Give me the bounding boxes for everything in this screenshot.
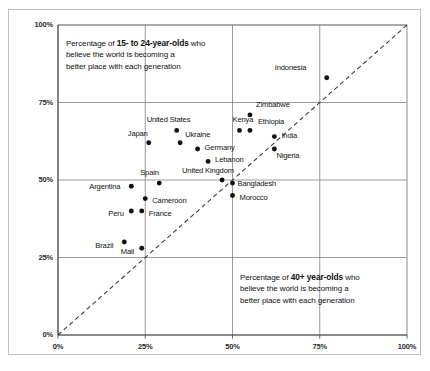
annotation-y-axis-description-emphasis: 15- to 24-year-olds: [117, 38, 189, 48]
point-label-mali: Mali: [121, 247, 134, 256]
data-point[interactable]: [248, 128, 253, 133]
x-axis-tick-label-75: 75%: [300, 342, 340, 351]
x-axis-tick-label-50: 50%: [213, 342, 253, 351]
point-label-lebanon: Lebanon: [215, 155, 244, 164]
data-point[interactable]: [143, 196, 148, 201]
annotation-y-axis-description: Percentage of 15- to 24-year-olds whobel…: [66, 38, 205, 72]
point-label-germany: Germany: [205, 143, 235, 152]
annotation-x-axis-description-line-3: better place with each generation: [240, 295, 360, 306]
annotation-x-axis-description-suffix: who: [343, 273, 360, 282]
data-point[interactable]: [324, 75, 329, 80]
annotation-y-axis-description-line-1: Percentage of 15- to 24-year-olds who: [66, 38, 205, 49]
data-point[interactable]: [237, 128, 242, 133]
point-label-zimbabwe: Zimbabwe: [256, 100, 290, 109]
point-label-indonesia: Indonesia: [275, 63, 307, 72]
data-point[interactable]: [220, 178, 225, 183]
point-label-india: India: [281, 131, 297, 140]
point-label-peru: Peru: [108, 209, 123, 218]
y-axis-tick-label-100: 100%: [22, 20, 53, 29]
annotation-x-axis-description-line-1: Percentage of 40+ year-olds who: [240, 272, 360, 283]
point-label-nigeria: Nigeria: [276, 151, 299, 160]
y-axis-tick-label-0: 0%: [22, 330, 53, 339]
annotation-y-axis-description-prefix: Percentage of: [66, 39, 117, 48]
scatter-plot-canvas: [0, 0, 430, 371]
data-point[interactable]: [272, 134, 277, 139]
data-point[interactable]: [129, 184, 134, 189]
annotation-y-axis-description-line-2: believe the world is becoming a: [66, 49, 205, 60]
point-label-united-states: United States: [147, 115, 191, 124]
annotation-x-axis-description-prefix: Percentage of: [240, 273, 291, 282]
y-axis-tick-label-50: 50%: [22, 175, 53, 184]
x-axis-tick-label-25: 25%: [125, 342, 165, 351]
x-axis-tick-label-0: 0%: [38, 342, 78, 351]
data-point[interactable]: [139, 209, 144, 214]
point-label-morocco: Morocco: [240, 193, 268, 202]
point-label-brazil: Brazil: [95, 241, 113, 250]
annotation-x-axis-description: Percentage of 40+ year-olds whobelieve t…: [240, 272, 360, 306]
point-label-ethiopia: Ethiopia: [258, 117, 284, 126]
point-label-ukraine: Ukraine: [185, 130, 210, 139]
annotation-y-axis-description-line-3: better place with each generation: [66, 61, 205, 72]
point-label-spain: Spain: [140, 168, 159, 177]
data-point[interactable]: [195, 147, 200, 152]
data-point[interactable]: [230, 193, 235, 198]
y-axis-tick-label-75: 75%: [22, 98, 53, 107]
point-label-cameroon: Cameroon: [152, 196, 186, 205]
point-label-united-kingdom: United Kingdom: [182, 166, 234, 175]
data-point[interactable]: [139, 246, 144, 251]
data-point[interactable]: [178, 140, 183, 145]
data-point[interactable]: [174, 128, 179, 133]
point-label-kenya: Kenya: [232, 115, 253, 124]
data-point[interactable]: [129, 209, 134, 214]
data-point[interactable]: [157, 181, 162, 186]
annotation-x-axis-description-line-2: believe the world is becoming a: [240, 283, 360, 294]
point-label-france: France: [149, 209, 172, 218]
y-axis-tick-label-25: 25%: [22, 253, 53, 262]
x-axis-tick-label-100: 100%: [387, 342, 427, 351]
data-point[interactable]: [206, 159, 211, 164]
annotation-y-axis-description-suffix: who: [189, 39, 206, 48]
data-point[interactable]: [146, 140, 151, 145]
data-point[interactable]: [230, 181, 235, 186]
point-label-bangladesh: Bangladesh: [238, 179, 277, 188]
point-label-argentina: Argentina: [89, 182, 120, 191]
point-label-japan: Japan: [128, 129, 148, 138]
annotation-x-axis-description-emphasis: 40+ year-olds: [291, 272, 343, 282]
data-point[interactable]: [122, 240, 127, 245]
